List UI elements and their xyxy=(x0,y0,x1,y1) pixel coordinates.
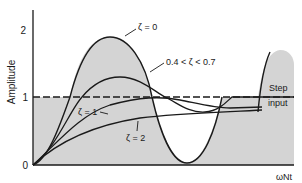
y-tick-2: 2 xyxy=(20,25,26,36)
step-response-diagram: 2 1 0 Amplitude ωNt ζ = 0 0.4 < ζ < 0.7 … xyxy=(0,0,302,183)
y-tick-1: 1 xyxy=(22,92,28,103)
y-tick-0: 0 xyxy=(22,160,28,171)
zeta0-leader xyxy=(125,29,136,36)
label-step: Step xyxy=(269,83,288,93)
zeta-range-leader xyxy=(150,63,164,72)
y-axis-label: Amplitude xyxy=(6,59,17,104)
label-zeta-2: ζ = 2 xyxy=(126,133,145,143)
label-zeta-0: ζ = 0 xyxy=(138,22,157,32)
zeta0-first-lobe-fill xyxy=(70,37,152,97)
label-zeta-range: 0.4 < ζ < 0.7 xyxy=(166,57,216,67)
label-zeta-1: ζ = 1 xyxy=(78,107,97,117)
label-input: input xyxy=(268,98,288,108)
x-axis-label: ωNt xyxy=(276,172,293,182)
